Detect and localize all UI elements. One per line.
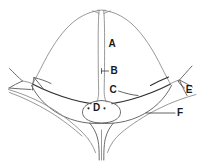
central-lens-outline — [82, 101, 120, 123]
central-lens-group — [82, 101, 120, 123]
outer-contour-left — [9, 90, 96, 153]
left-lateral-branch-group — [9, 69, 32, 90]
outer-contour-right — [108, 95, 197, 153]
label-f: F — [177, 107, 183, 118]
anatomy-line-drawing: A B C D E F — [0, 0, 203, 161]
figure-container: A B C D E F — [0, 0, 203, 161]
leader-line-c — [119, 91, 139, 96]
label-b: B — [110, 65, 117, 76]
right-inner-wing-group — [151, 77, 169, 86]
left-branch-lower-arm — [9, 88, 31, 90]
label-d: D — [93, 102, 100, 113]
dome-left-outline — [33, 11, 100, 85]
lens-dot-left — [87, 107, 89, 109]
label-e: E — [186, 84, 193, 95]
stem-left-wall — [90, 124, 99, 161]
inner-arch-lower-left — [32, 86, 91, 124]
labels-group: A B C D E F — [93, 38, 193, 118]
midline-septum-group — [93, 11, 111, 102]
label-c: C — [109, 84, 116, 95]
lens-dot-right — [103, 107, 105, 109]
left-branch-vertex — [9, 81, 23, 88]
midline-right-stroke — [104, 12, 107, 103]
midline-left-stroke — [97, 12, 99, 103]
right-branch-upper-arm — [180, 66, 193, 80]
outer-body-contour-group — [9, 90, 197, 153]
stem-right-wall — [104, 124, 113, 161]
lower-stem-group — [90, 124, 113, 161]
left-branch-stub — [23, 81, 33, 84]
right-wing-upper — [151, 77, 169, 86]
label-a: A — [108, 38, 115, 49]
left-branch-upper-arm — [10, 69, 23, 82]
inner-arch-band-group — [32, 84, 172, 124]
